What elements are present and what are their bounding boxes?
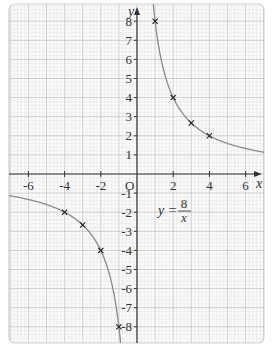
y-tick-label: -8: [121, 319, 132, 334]
equation-lhs: y =: [156, 203, 177, 218]
x-tick-label: -4: [59, 178, 70, 193]
y-tick-label: 2: [126, 128, 133, 143]
origin-label: O: [125, 178, 134, 193]
y-tick-label: 7: [126, 33, 133, 48]
x-tick-label: 4: [206, 178, 213, 193]
y-tick-label: 3: [126, 109, 133, 124]
x-tick-label: -2: [95, 178, 106, 193]
y-tick-label: -3: [121, 224, 132, 239]
equation-numerator: 8: [181, 196, 188, 211]
y-tick-label: -5: [121, 262, 132, 277]
x-tick-label: -6: [23, 178, 34, 193]
x-tick-label: 2: [170, 178, 177, 193]
y-tick-label: -7: [121, 300, 132, 315]
y-tick-label: -6: [121, 281, 132, 296]
x-tick-label: 6: [242, 178, 249, 193]
y-tick-label: 1: [126, 147, 133, 162]
y-tick-label: -2: [121, 205, 132, 220]
x-axis-label: x: [255, 176, 263, 191]
y-axis-label: y: [126, 4, 135, 19]
equation-denominator: x: [180, 210, 187, 225]
y-tick-label: -4: [121, 243, 132, 258]
y-tick-label: 6: [126, 52, 133, 67]
y-tick-label: 4: [126, 90, 133, 105]
reciprocal-graph: -6-4-224687654321-1-2-3-4-5-6-7-8xyO y =…: [0, 0, 272, 355]
y-tick-label: 5: [126, 71, 133, 86]
